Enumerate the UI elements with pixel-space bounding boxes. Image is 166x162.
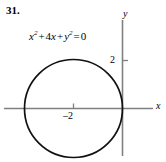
y-axis-label: y <box>123 8 127 19</box>
plot-area <box>0 0 166 162</box>
circle-graph-figure: 31. x2+4x+y2=0 y x 2 –2 <box>0 0 166 162</box>
x-tick-label-negative-2: –2 <box>63 110 73 121</box>
x-axis-label: x <box>156 100 160 111</box>
y-tick-label-2: 2 <box>110 54 115 65</box>
